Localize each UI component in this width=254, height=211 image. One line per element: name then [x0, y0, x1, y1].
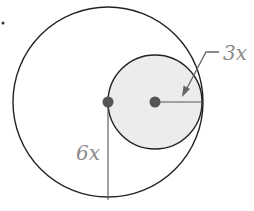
small-radius-label: 3x [223, 41, 247, 65]
large-center-dot [103, 97, 114, 108]
tangent-circles-diagram: 3x 6x [0, 0, 254, 211]
small-center-dot [150, 97, 161, 108]
corner-mark [2, 22, 5, 25]
large-radius-label: 6x [76, 141, 100, 165]
